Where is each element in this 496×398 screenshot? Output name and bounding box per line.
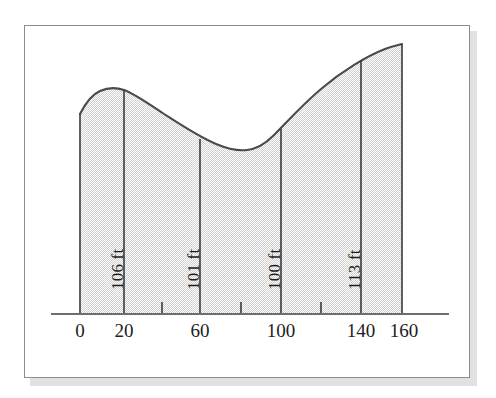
figure-plate: 106 ft 101 ft 100 ft 113 ft 0 20 60 100 … xyxy=(24,25,470,378)
x-tick-label-100: 100 xyxy=(267,320,296,342)
measurement-label-100ft: 100 ft xyxy=(265,249,285,290)
x-tick-label-160: 160 xyxy=(390,320,419,342)
x-tick-label-0: 0 xyxy=(75,320,85,342)
x-tick-label-140: 140 xyxy=(347,320,376,342)
measurement-label-101ft: 101 ft xyxy=(184,249,204,290)
measurement-label-106ft: 106 ft xyxy=(108,249,128,290)
x-tick-label-20: 20 xyxy=(115,320,134,342)
measurement-label-113ft: 113 ft xyxy=(345,249,365,290)
x-tick-label-60: 60 xyxy=(191,320,210,342)
figure-root: 106 ft 101 ft 100 ft 113 ft 0 20 60 100 … xyxy=(0,0,496,398)
